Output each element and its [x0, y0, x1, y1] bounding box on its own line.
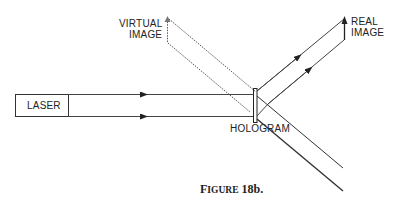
- virtual-image-label-line2: IMAGE: [129, 29, 162, 40]
- hologram-label: HOLOGRAM: [230, 123, 290, 134]
- transmitted-beams: [257, 96, 343, 191]
- real-ray-connector: [257, 104, 268, 116]
- real-image-label-line1: REAL: [351, 16, 378, 27]
- laser-box: LASER: [16, 95, 69, 117]
- beam-arrow-icon: [268, 68, 311, 104]
- laser-label: LASER: [27, 100, 61, 111]
- virtual-ray-top: [169, 19, 256, 92]
- real-image-label-line2: IMAGE: [351, 27, 384, 38]
- figure-caption: FIGURE 18b.: [200, 182, 263, 196]
- transmitted-ray-bottom: [257, 119, 343, 191]
- hologram-diagram: LASER HOLOGRAM VIRTUAL IMAGE REAL IMAGE …: [0, 0, 400, 210]
- real-image-beams: [257, 19, 345, 116]
- incident-beams: [68, 95, 254, 117]
- hologram-plate: [254, 89, 258, 123]
- beam-arrow-icon: [257, 56, 300, 92]
- virtual-image: [168, 19, 257, 112]
- virtual-image-label-line1: VIRTUAL: [119, 18, 163, 29]
- virtual-ray-bottom: [168, 43, 250, 112]
